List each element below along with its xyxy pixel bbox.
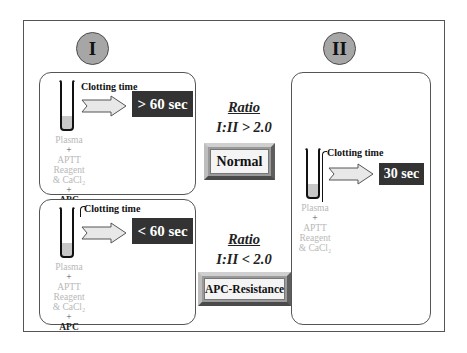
ratio-expression: I:II < 2.0 [196, 249, 292, 269]
apc-resistance-result-label: APC-Resistance [204, 278, 285, 300]
clotting-time-label: Clotting time [327, 147, 383, 158]
clotting-time-label: Clotting time [84, 203, 140, 214]
panel-ii-label: II [332, 38, 347, 60]
normal-result-badge: Normal [204, 143, 275, 180]
panel-i-label: I [89, 38, 96, 60]
clotting-result-box: > 60 sec [132, 91, 193, 117]
reagent-plasma: Plasma [292, 203, 338, 213]
reagent-list: Plasma + APTT Reagent & CaCl₂ + APC [46, 262, 92, 332]
arrow-right-icon [81, 95, 127, 117]
reagent-list: Plasma + APTT Reagent & CaCl₂ [292, 203, 338, 253]
arrow-right-icon [81, 222, 127, 244]
reagent-cacl2: & CaCl₂ [292, 243, 338, 253]
clotting-result-box: 30 sec [379, 163, 424, 185]
reagent-plus: + [46, 312, 92, 322]
normal-result-label: Normal [210, 149, 269, 174]
reagent-aptt: APTT [292, 223, 338, 233]
test-tube-icon [59, 80, 75, 132]
reagent-plasma: Plasma [46, 135, 92, 145]
reagent-aptt: APTT [46, 155, 92, 165]
ratio-resistant: Ratio I:II < 2.0 [196, 229, 292, 269]
panel-i-normal-box: Clotting time > 60 sec Plasma + APTT Rea… [39, 72, 196, 195]
reagent-plus: + [46, 145, 92, 155]
clotting-time-label: Clotting time [81, 81, 137, 92]
reagent-plus: + [292, 213, 338, 223]
ratio-title: Ratio [196, 97, 292, 117]
apc-resistance-result-badge: APC-Resistance [198, 272, 291, 306]
ratio-normal: Ratio I:II > 2.0 [196, 97, 292, 137]
reagent-aptt: APTT [46, 282, 92, 292]
reagent-reagent: Reagent [46, 292, 92, 302]
test-tube-icon [59, 207, 75, 259]
reagent-plus: + [46, 272, 92, 282]
reagent-cacl2: & CaCl₂ [46, 175, 92, 185]
arrow-right-icon [328, 163, 374, 185]
reagent-list: Plasma + APTT Reagent & CaCl₂ + APC [46, 135, 92, 205]
bracket-icon [322, 151, 327, 202]
reagent-plus: + [46, 185, 92, 195]
panel-ii-box: Clotting time 30 sec Plasma + APTT Reage… [291, 72, 431, 325]
reagent-reagent: Reagent [292, 233, 338, 243]
test-tube-icon [305, 148, 321, 200]
reagent-plasma: Plasma [46, 262, 92, 272]
reagent-reagent: Reagent [46, 165, 92, 175]
panel-i-resistant-box: Clotting time < 60 sec Plasma + APTT Rea… [39, 199, 196, 325]
panel-ii-badge: II [323, 32, 356, 65]
reagent-apc: APC [46, 322, 92, 332]
clotting-result-box: < 60 sec [132, 218, 193, 244]
panel-i-badge: I [76, 32, 109, 65]
ratio-title: Ratio [196, 229, 292, 249]
reagent-cacl2: & CaCl₂ [46, 302, 92, 312]
ratio-expression: I:II > 2.0 [196, 117, 292, 137]
